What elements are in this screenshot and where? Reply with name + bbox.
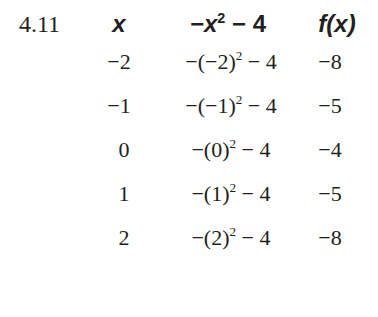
row-2-expression: −(0)2 − 4 — [166, 139, 296, 161]
row-3-expr-base: −(1) — [191, 181, 229, 206]
header-x: x — [99, 12, 139, 36]
header-expr-suffix: − 4 — [225, 10, 266, 37]
row-4-fx: −8 — [305, 227, 355, 249]
header-fx: f(x) — [312, 12, 362, 36]
row-0-expr-tail: − 4 — [242, 49, 276, 74]
row-2-fx: −4 — [305, 139, 355, 161]
row-1-x: −1 — [99, 95, 139, 117]
row-4-x: 2 — [104, 227, 144, 249]
header-f-arg: (x) — [326, 10, 355, 37]
row-0-expr-base: −(−2) — [185, 49, 235, 74]
row-4-expression: −(2)2 − 4 — [166, 227, 296, 249]
row-0-fx: −8 — [305, 51, 355, 73]
row-2-expr-base: −(0) — [191, 137, 229, 162]
row-1-fx: −5 — [305, 95, 355, 117]
row-0-expression: −(−2)2 − 4 — [166, 51, 296, 73]
row-3-expr-tail: − 4 — [236, 181, 270, 206]
header-expr-prefix: −x — [190, 10, 217, 37]
header-expression: −x2 − 4 — [163, 12, 293, 36]
row-4-expr-base: −(2) — [191, 225, 229, 250]
row-1-expression: −(−1)2 − 4 — [166, 95, 296, 117]
row-2-x: 0 — [104, 139, 144, 161]
row-0-x: −2 — [99, 51, 139, 73]
problem-number: 4.11 — [19, 12, 60, 36]
row-3-x: 1 — [104, 183, 144, 205]
row-2-expr-tail: − 4 — [236, 137, 270, 162]
row-3-expression: −(1)2 − 4 — [166, 183, 296, 205]
row-1-expr-base: −(−1) — [185, 93, 235, 118]
row-1-expr-tail: − 4 — [242, 93, 276, 118]
row-4-expr-tail: − 4 — [236, 225, 270, 250]
row-3-fx: −5 — [305, 183, 355, 205]
